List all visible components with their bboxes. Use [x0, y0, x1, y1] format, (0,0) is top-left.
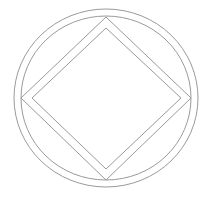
inner-circle [21, 16, 191, 180]
inner-diamond [32, 28, 181, 169]
circle-diamond-emblem-icon [0, 0, 212, 203]
outer-diamond [21, 17, 191, 180]
outer-circle [14, 9, 198, 187]
emblem-canvas [0, 0, 212, 203]
